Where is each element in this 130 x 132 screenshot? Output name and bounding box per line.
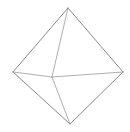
figure-canvas — [0, 0, 130, 132]
octahedron-wireframe-svg — [0, 0, 130, 132]
edge-right-bottom — [70, 72, 123, 124]
interior-edge-group — [13, 8, 123, 124]
edge-top-right — [68, 8, 123, 72]
edge-interior-right — [52, 72, 123, 77]
edge-top-interior — [52, 8, 68, 77]
edge-bottom-left — [13, 72, 70, 124]
edge-interior-bottom — [52, 77, 70, 124]
silhouette-edge-group — [13, 8, 123, 124]
edge-left-interior — [13, 72, 52, 77]
edge-left-top — [13, 8, 68, 72]
